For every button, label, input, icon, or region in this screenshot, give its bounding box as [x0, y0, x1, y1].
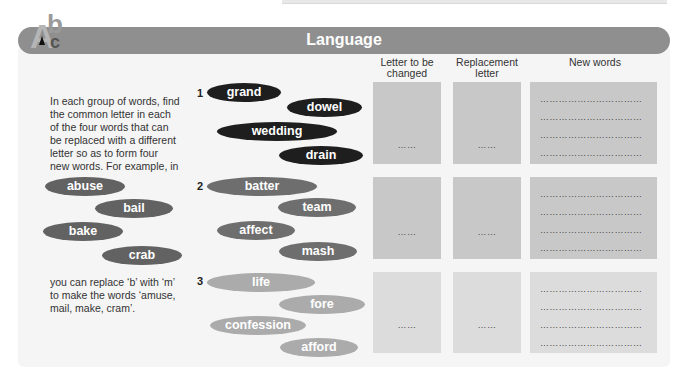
column-header-letter-to-change: Letter to be changed	[370, 57, 444, 79]
letter-to-change-field[interactable]: ……	[373, 177, 441, 259]
group-word: afford	[280, 338, 358, 357]
group-number: 1	[197, 87, 203, 99]
replacement-letter-field[interactable]: ……	[453, 272, 521, 353]
triangle-icon	[39, 36, 45, 45]
group-word: affect	[217, 221, 295, 240]
letter-to-change-field[interactable]: ……	[373, 272, 441, 353]
group-word: grand	[207, 83, 281, 102]
example-word: bail	[95, 199, 173, 218]
group-word: dowel	[287, 98, 362, 117]
abc-logo-icon: A b c	[30, 13, 70, 53]
new-words-field[interactable]: …………………………… …………………………… …………………………… ……………	[530, 82, 657, 164]
group-number: 3	[197, 275, 203, 287]
group-word: confession	[210, 316, 306, 335]
instructions-intro: In each group of words, find the common …	[50, 95, 180, 173]
replacement-letter-field[interactable]: ……	[453, 82, 521, 164]
replacement-letter-field[interactable]: ……	[453, 177, 521, 259]
example-word: crab	[102, 246, 182, 265]
section-banner: Language	[18, 27, 670, 54]
letter-to-change-field[interactable]: ……	[373, 82, 441, 164]
group-word: fore	[279, 295, 365, 314]
new-words-field[interactable]: …………………………… …………………………… …………………………… ……………	[530, 177, 657, 259]
group-word: mash	[279, 242, 357, 261]
group-word: life	[207, 273, 315, 292]
group-word: team	[278, 198, 356, 217]
group-word: batter	[207, 177, 317, 196]
column-header-replacement: Replacement letter	[450, 57, 524, 79]
group-word: wedding	[217, 122, 337, 141]
example-word: bake	[43, 222, 123, 241]
instructions-outro: you can replace ‘b’ with ‘m’ to make the…	[50, 276, 185, 315]
column-header-new-words: New words	[565, 57, 625, 68]
new-words-field[interactable]: …………………………… …………………………… …………………………… ……………	[530, 272, 657, 353]
section-title: Language	[18, 31, 670, 49]
example-word: abuse	[45, 177, 125, 196]
top-strip	[282, 0, 667, 4]
group-word: drain	[279, 146, 363, 165]
group-number: 2	[197, 180, 203, 192]
